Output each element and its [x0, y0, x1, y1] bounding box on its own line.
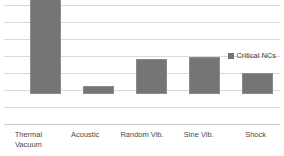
- chart-legend[interactable]: Critical NCs: [228, 52, 276, 60]
- bar-thermal-vacuum[interactable]: [30, 0, 61, 94]
- bar-acoustic[interactable]: [83, 86, 114, 94]
- bar-shock[interactable]: [242, 73, 273, 94]
- x-tick-thermal-vacuum: Thermal Vacuum: [0, 127, 57, 156]
- bars-layer: [0, 0, 284, 126]
- x-tick-acoustic: Acoustic: [57, 127, 114, 156]
- bar-sine-vib[interactable]: [189, 57, 220, 94]
- bar-chart: Critical NCs Thermal Vacuum Acoustic Ran…: [0, 0, 284, 156]
- legend-swatch-icon: [228, 53, 234, 59]
- bar-random-vib[interactable]: [136, 59, 167, 94]
- x-tick-random-vib: Random Vib.: [114, 127, 171, 156]
- x-tick-shock: Shock: [227, 127, 284, 156]
- x-tick-sine-vib: Sine Vib.: [170, 127, 227, 156]
- x-axis-labels: Thermal Vacuum Acoustic Random Vib. Sine…: [0, 127, 284, 156]
- legend-label-critical-ncs: Critical NCs: [236, 52, 276, 60]
